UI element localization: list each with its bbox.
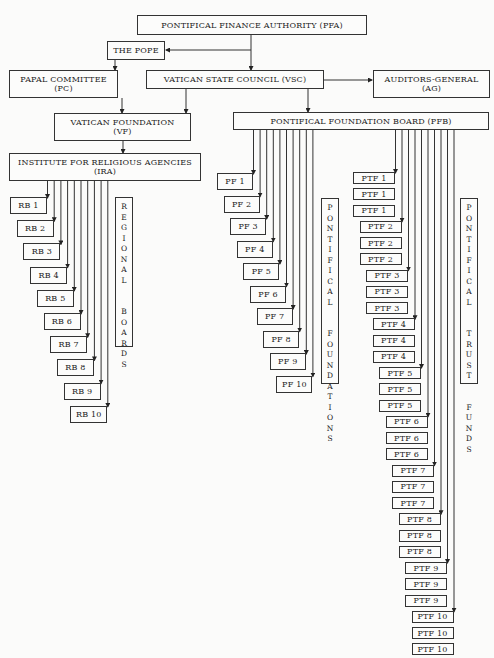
vertical-label-space xyxy=(468,392,470,403)
vertical-label-letter: A xyxy=(466,287,471,298)
ptf-box-label: PTF 2 xyxy=(368,222,393,231)
vertical-label-letter: O xyxy=(327,413,333,424)
vertical-label-letter: D xyxy=(327,371,333,382)
vertical-label-letter: I xyxy=(329,245,332,256)
vertical-label-letter: T xyxy=(327,392,332,403)
ptf-box-label: PTF 1 xyxy=(362,206,387,215)
vertical-label-letter: I xyxy=(329,403,332,414)
ptf-box-label: PTF 6 xyxy=(394,450,419,459)
ptf-box-label: PTF 5 xyxy=(388,385,413,394)
rb-box: RB 3 xyxy=(23,243,60,260)
ptf-box: PTF 4 xyxy=(373,335,415,347)
pc-abbrev: (PC) xyxy=(54,84,73,93)
ptf-box: PTF 2 xyxy=(360,237,402,249)
ag-label: AUDITORS-GENERAL xyxy=(385,75,479,84)
ptf-box-label: PTF 2 xyxy=(368,255,393,264)
pf-box-label: PF 5 xyxy=(252,267,271,276)
rb-box-label: RB 7 xyxy=(59,340,79,349)
rb-box: RB 2 xyxy=(17,220,54,237)
ptf-box: PTF 9 xyxy=(405,578,447,590)
ptf-box: PTF 4 xyxy=(373,351,415,363)
pc-label: PAPAL COMMITTEE xyxy=(20,75,106,84)
vertical-label-letter: T xyxy=(466,371,471,382)
rb-box: RB 4 xyxy=(30,267,67,284)
pf-box: PF 10 xyxy=(276,376,312,393)
vertical-label-letter: R xyxy=(121,202,127,213)
ptf-box-label: PTF 5 xyxy=(388,401,413,410)
rb-box: RB 10 xyxy=(70,406,107,423)
ptf-box: PTF 9 xyxy=(405,562,447,574)
pf-box-label: PF 2 xyxy=(232,200,251,209)
vertical-label-letter: O xyxy=(327,214,333,225)
vertical-label-letter xyxy=(123,286,125,297)
pf-box-label: PF 3 xyxy=(239,222,258,231)
pf-box: PF 1 xyxy=(217,173,253,190)
vertical-label-letter: A xyxy=(121,265,126,276)
ptf-box: PTF 2 xyxy=(360,221,402,233)
ptf-box-label: PTF 3 xyxy=(375,304,400,313)
ptf-box-label: PTF 8 xyxy=(407,515,432,524)
pf-box: PF 3 xyxy=(230,218,266,235)
ptf-box-label: PTF 9 xyxy=(414,580,439,589)
ira-label: INSTITUTE FOR RELIGIOUS AGENCIES xyxy=(18,158,192,167)
ptf-box-label: PTF 3 xyxy=(375,271,400,280)
ptf-box-label: PTF 2 xyxy=(368,239,393,248)
ag-box: AUDITORS-GENERAL (AG) xyxy=(373,70,490,98)
pfa-label: PONTIFICAL FINANCE AUTHORITY (PFA) xyxy=(161,21,343,30)
vertical-label-letter: P xyxy=(466,203,471,214)
pf-box-label: PF 10 xyxy=(282,380,307,389)
rb-box-label: RB 4 xyxy=(38,271,58,280)
ptf-box: PTF 4 xyxy=(373,318,415,330)
pf-box: PF 4 xyxy=(237,241,273,258)
ptf-box: PTF 2 xyxy=(360,253,402,265)
vertical-label-letter: N xyxy=(466,424,473,435)
vertical-label-letter: T xyxy=(466,235,471,246)
vertical-label-letter: C xyxy=(327,277,333,288)
vertical-label-letter: F xyxy=(466,403,471,414)
vertical-label-letter: T xyxy=(327,235,332,246)
ptf-box-label: PTF 10 xyxy=(417,629,447,638)
vertical-label-letter: F xyxy=(327,256,332,267)
pf-box-label: PF 6 xyxy=(258,290,277,299)
vertical-label-letter: R xyxy=(466,340,472,351)
vsc-box: VATICAN STATE COUNCIL (VSC) xyxy=(146,70,324,89)
vertical-label-letter: I xyxy=(468,245,471,256)
pope-box: THE POPE xyxy=(107,41,165,60)
pf-box-label: PF 7 xyxy=(265,312,284,321)
vf-box: VATICAN FOUNDATION (VF) xyxy=(54,113,191,141)
ptf-box: PTF 5 xyxy=(379,400,421,412)
rb-box: RB 8 xyxy=(57,359,94,376)
rb-box-label: RB 1 xyxy=(18,201,38,210)
vertical-label-letter: E xyxy=(121,213,126,224)
ptf-box: PTF 5 xyxy=(379,383,421,395)
vertical-label-letter: S xyxy=(327,434,332,445)
ptf-box: PTF 10 xyxy=(412,643,454,655)
vertical-label-letter: S xyxy=(466,445,471,456)
vertical-label-letter: T xyxy=(466,329,471,340)
pontifical-trust-funds-label: PONTIFICAL TRUST FUNDS xyxy=(460,198,478,384)
ptf-box-label: PTF 7 xyxy=(401,499,426,508)
ptf-box: PTF 3 xyxy=(366,270,408,282)
pf-box: PF 7 xyxy=(257,308,293,325)
ptf-box-label: PTF 10 xyxy=(417,645,447,654)
ptf-box-label: PTF 7 xyxy=(401,466,426,475)
vertical-label-letter: L xyxy=(467,298,472,309)
vertical-label-letter: U xyxy=(327,350,333,361)
vertical-label-letter: N xyxy=(327,361,334,372)
pf-box: PF 6 xyxy=(250,286,286,303)
vertical-label-space xyxy=(123,297,125,308)
rb-box-label: RB 6 xyxy=(52,317,72,326)
vertical-label-letter xyxy=(329,308,331,319)
pc-box: PAPAL COMMITTEE (PC) xyxy=(9,70,118,98)
rb-box: RB 5 xyxy=(37,290,74,307)
rb-box: RB 1 xyxy=(10,197,47,214)
vertical-label-letter: I xyxy=(329,266,332,277)
ptf-box-label: PTF 9 xyxy=(414,564,439,573)
vertical-label-letter: N xyxy=(327,224,334,235)
vertical-label-letter: S xyxy=(466,361,471,372)
vsc-label: VATICAN STATE COUNCIL (VSC) xyxy=(164,75,307,84)
pf-box-label: PF 1 xyxy=(225,177,244,186)
vertical-label-space xyxy=(468,319,470,330)
ptf-box: PTF 9 xyxy=(405,595,447,607)
ptf-box-label: PTF 6 xyxy=(394,434,419,443)
